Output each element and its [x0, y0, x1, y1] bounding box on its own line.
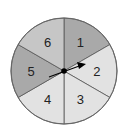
section-label: 5 [28, 64, 35, 79]
section-label: 1 [77, 35, 84, 50]
section-label: 4 [44, 92, 51, 107]
section-label: 6 [44, 35, 51, 50]
section-label: 3 [77, 92, 84, 107]
section-label: 2 [93, 64, 100, 79]
spinner-diagram: 123456 [0, 0, 125, 133]
spinner-pivot [61, 68, 67, 74]
